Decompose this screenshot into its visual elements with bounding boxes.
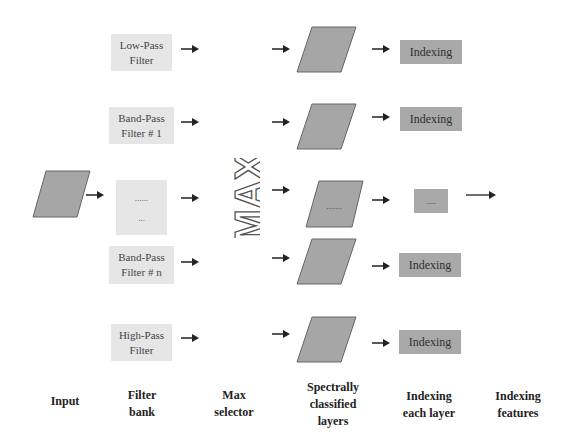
label-line: layers [296, 413, 370, 430]
label-line: selector [198, 404, 270, 421]
label-line: Filter [110, 387, 174, 404]
layer-label: ....... [326, 201, 342, 211]
label-line: bank [110, 404, 174, 421]
column-label-spectrally-classified-layers: Spectrally classified layers [296, 379, 370, 430]
filter-label: Filter # 1 [121, 126, 161, 141]
output-arrow-icon [466, 191, 496, 201]
indexing-box: Indexing [399, 330, 461, 354]
label-line: Indexing [483, 388, 553, 405]
arrow-icon [181, 118, 199, 128]
column-label-indexing-features: Indexing features [483, 388, 553, 422]
indexing-box: Indexing [400, 40, 462, 64]
input-layer-shape [32, 170, 92, 218]
arrow-icon [372, 113, 390, 123]
label-line: Indexing [389, 388, 469, 405]
column-label-max-selector: Max selector [198, 387, 270, 421]
layer-shape-5 [296, 316, 358, 364]
arrow-icon [272, 118, 290, 128]
filter-high-pass: High-Pass Filter [111, 324, 172, 361]
filter-label: Filter # n [121, 265, 161, 280]
layer-shape-2 [296, 103, 358, 151]
filter-label: ... [138, 208, 145, 228]
filter-label: Band-Pass [118, 250, 164, 265]
label-line: Max [198, 387, 270, 404]
indexing-box-ellipsis: ..... [414, 189, 448, 213]
arrow-icon [272, 254, 290, 264]
filter-band-pass-n: Band-Pass Filter # n [109, 246, 174, 284]
indexing-box: Indexing [399, 253, 461, 277]
arrow-icon [181, 194, 199, 204]
indexing-label: Indexing [410, 45, 453, 60]
filter-label: Filter [130, 343, 154, 358]
label-line: classified [296, 396, 370, 413]
filter-label: Low-Pass [120, 38, 163, 53]
filter-band-pass-1: Band-Pass Filter # 1 [109, 107, 174, 144]
label-line: features [483, 405, 553, 422]
arrow-icon [272, 330, 290, 340]
label-line: each layer [389, 405, 469, 422]
column-label-input: Input [40, 393, 90, 410]
arrow-icon [181, 45, 199, 55]
column-label-indexing-each-layer: Indexing each layer [389, 388, 469, 422]
arrow-icon [181, 334, 199, 344]
arrow-icon [86, 191, 104, 201]
filter-low-pass: Low-Pass Filter [111, 34, 172, 71]
filter-label: ...... [135, 188, 149, 208]
filter-ellipsis: ...... ... [116, 180, 167, 235]
indexing-label: Indexing [409, 258, 452, 273]
arrow-icon [181, 258, 199, 268]
indexing-label: Indexing [409, 335, 452, 350]
indexing-label: ..... [426, 194, 436, 209]
arrow-icon [372, 339, 390, 349]
layer-shape-1 [296, 26, 358, 74]
max-label: MAX [227, 158, 260, 238]
layer-shape-ellipsis: ....... [305, 180, 365, 228]
label-line: Spectrally [296, 379, 370, 396]
arrow-icon [272, 45, 290, 55]
column-label-filter-bank: Filter bank [110, 387, 174, 421]
layer-shape-4 [296, 238, 358, 286]
filter-label: Band-Pass [118, 111, 164, 126]
filter-label: High-Pass [119, 328, 164, 343]
max-selector: MAX [200, 158, 260, 238]
label-line: Input [40, 393, 90, 410]
arrow-icon [372, 45, 390, 55]
filter-label: Filter [130, 53, 154, 68]
indexing-box: Indexing [400, 107, 462, 131]
indexing-label: Indexing [410, 112, 453, 127]
arrow-icon [372, 262, 390, 272]
arrow-icon [372, 196, 390, 206]
arrow-icon [272, 186, 290, 196]
